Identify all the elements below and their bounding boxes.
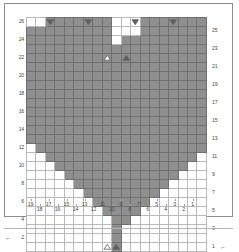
stitch-cell[interactable] (140, 144, 149, 153)
stitch-cell[interactable] (55, 63, 64, 72)
stitch-cell[interactable] (197, 108, 207, 117)
stitch-cell[interactable] (159, 45, 168, 54)
stitch-cell[interactable] (150, 243, 159, 252)
stitch-cell[interactable] (178, 72, 187, 81)
stitch-cell[interactable] (112, 153, 121, 162)
stitch-cell[interactable] (150, 117, 159, 126)
stitch-cell[interactable] (64, 225, 73, 234)
stitch-cell[interactable] (197, 126, 207, 135)
stitch-cell[interactable] (74, 135, 83, 144)
stitch-cell[interactable] (64, 243, 73, 252)
stitch-cell[interactable] (187, 36, 196, 45)
stitch-cell[interactable] (64, 18, 73, 27)
stitch-cell[interactable] (197, 216, 207, 225)
stitch-cell[interactable] (121, 117, 130, 126)
stitch-cell[interactable] (93, 117, 102, 126)
stitch-cell[interactable] (74, 225, 83, 234)
stitch-cell[interactable] (64, 99, 73, 108)
stitch-cell[interactable] (27, 234, 36, 243)
stitch-cell[interactable] (36, 216, 45, 225)
stitch-cell[interactable] (36, 36, 45, 45)
stitch-cell[interactable] (178, 126, 187, 135)
stitch-cell[interactable] (140, 171, 149, 180)
stitch-cell[interactable] (83, 27, 92, 36)
stitch-cell[interactable] (197, 153, 207, 162)
stitch-cell[interactable] (45, 180, 54, 189)
stitch-cell[interactable] (121, 171, 130, 180)
stitch-cell[interactable] (93, 18, 102, 27)
stitch-cell[interactable] (140, 189, 149, 198)
stitch-cell[interactable] (64, 81, 73, 90)
stitch-cell[interactable] (45, 144, 54, 153)
stitch-cell[interactable] (169, 45, 178, 54)
stitch-cell[interactable] (169, 27, 178, 36)
stitch-cell[interactable] (45, 171, 54, 180)
stitch-cell[interactable] (169, 243, 178, 252)
stitch-cell[interactable] (83, 108, 92, 117)
stitch-cell[interactable] (169, 135, 178, 144)
stitch-cell[interactable] (197, 45, 207, 54)
stitch-cell[interactable] (74, 36, 83, 45)
stitch-cell[interactable] (112, 99, 121, 108)
stitch-cell[interactable] (178, 90, 187, 99)
stitch-cell[interactable] (55, 27, 64, 36)
stitch-cell[interactable] (159, 162, 168, 171)
stitch-cell[interactable] (159, 72, 168, 81)
stitch-cell[interactable] (159, 27, 168, 36)
stitch-cell[interactable] (197, 171, 207, 180)
stitch-cell[interactable] (112, 45, 121, 54)
stitch-cell[interactable] (83, 189, 92, 198)
stitch-cell[interactable] (45, 135, 54, 144)
stitch-cell[interactable] (169, 153, 178, 162)
stitch-cell[interactable] (187, 144, 196, 153)
stitch-cell[interactable] (159, 135, 168, 144)
stitch-cell[interactable] (131, 45, 140, 54)
stitch-cell[interactable] (150, 90, 159, 99)
stitch-cell[interactable] (83, 135, 92, 144)
stitch-cell[interactable] (131, 54, 140, 63)
stitch-cell[interactable] (83, 54, 92, 63)
stitch-cell[interactable] (45, 243, 54, 252)
stitch-cell[interactable] (36, 27, 45, 36)
stitch-cell[interactable] (45, 81, 54, 90)
stitch-cell[interactable] (187, 189, 196, 198)
stitch-cell[interactable] (187, 171, 196, 180)
stitch-cell[interactable] (178, 243, 187, 252)
stitch-cell[interactable] (112, 144, 121, 153)
stitch-cell[interactable] (64, 63, 73, 72)
stitch-cell[interactable] (150, 99, 159, 108)
stitch-cell[interactable] (64, 126, 73, 135)
stitch-cell[interactable] (131, 234, 140, 243)
stitch-cell[interactable] (140, 36, 149, 45)
stitch-cell[interactable] (112, 162, 121, 171)
stitch-cell[interactable] (27, 225, 36, 234)
stitch-cell[interactable] (64, 180, 73, 189)
stitch-cell[interactable] (36, 117, 45, 126)
stitch-cell[interactable] (197, 63, 207, 72)
stitch-cell[interactable] (187, 153, 196, 162)
stitch-cell[interactable] (131, 99, 140, 108)
stitch-cell[interactable] (36, 171, 45, 180)
stitch-cell[interactable] (93, 189, 102, 198)
stitch-cell[interactable] (131, 189, 140, 198)
stitch-cell[interactable] (93, 81, 102, 90)
stitch-cell[interactable] (74, 63, 83, 72)
stitch-cell[interactable] (27, 18, 36, 27)
stitch-cell[interactable] (27, 45, 36, 54)
stitch-cell[interactable] (131, 63, 140, 72)
stitch-cell[interactable] (36, 63, 45, 72)
stitch-cell[interactable] (187, 180, 196, 189)
stitch-cell[interactable] (178, 18, 187, 27)
stitch-cell[interactable] (102, 18, 111, 27)
stitch-cell[interactable] (36, 108, 45, 117)
stitch-cell[interactable] (140, 54, 149, 63)
stitch-cell[interactable] (102, 45, 111, 54)
stitch-cell[interactable] (55, 117, 64, 126)
stitch-cell[interactable] (197, 144, 207, 153)
stitch-cell[interactable] (74, 162, 83, 171)
stitch-cell[interactable] (83, 18, 92, 27)
stitch-cell[interactable] (45, 36, 54, 45)
stitch-cell[interactable] (197, 162, 207, 171)
stitch-cell[interactable] (93, 144, 102, 153)
stitch-cell[interactable] (83, 63, 92, 72)
